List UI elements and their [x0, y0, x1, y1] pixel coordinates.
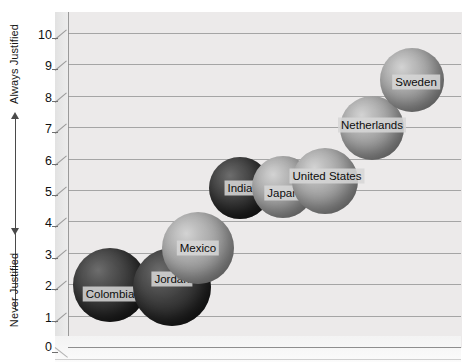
x-axis-line	[68, 347, 461, 348]
y-axis-tick-label: 5	[26, 185, 52, 199]
y-axis-tick-mark	[52, 195, 58, 196]
arrow-down-icon	[11, 228, 19, 235]
gridline	[68, 221, 461, 222]
y-axis-tick-label: 4	[26, 216, 52, 230]
y-axis-tick-mark	[52, 226, 58, 227]
y-axis-tick-mark	[52, 132, 58, 133]
plot-side-wall	[55, 12, 68, 348]
y-axis-tick-mark	[52, 164, 58, 165]
y-axis-tick-mark	[52, 38, 58, 39]
y-axis-tick-mark	[52, 101, 58, 102]
bubble-label: India	[225, 181, 256, 196]
y-axis-top-caption: Always Justified	[0, 14, 28, 114]
bubble-label: United States	[289, 169, 364, 184]
y-axis-tick-label: 7	[26, 122, 52, 136]
y-axis-tick-mark	[52, 321, 58, 322]
y-axis-tick-label: 8	[26, 91, 52, 105]
gridline	[68, 159, 461, 160]
bubble-label: Sweden	[392, 75, 440, 90]
bubble-sweden[interactable]: Sweden	[380, 48, 444, 112]
y-axis-tick-label: 9	[26, 59, 52, 73]
bubble-united-states[interactable]: United States	[292, 148, 358, 214]
y-axis-tick-label: 0	[26, 340, 52, 354]
gridline	[68, 33, 461, 34]
y-axis-tick-mark	[52, 69, 58, 70]
y-axis-tick-label: 1	[26, 311, 52, 325]
floor-front-edge	[55, 359, 461, 360]
bubble-label: Colombia	[83, 287, 138, 302]
y-axis-top-caption-text: Always Justified	[8, 24, 20, 104]
bubble-mexico[interactable]: Mexico	[162, 212, 234, 284]
y-axis-tick-mark	[52, 352, 58, 353]
y-axis-bottom-caption-text: Never Justified	[8, 253, 20, 327]
y-axis-tick-mark	[52, 258, 58, 259]
y-axis-bottom-caption: Never Justified	[0, 238, 28, 342]
y-axis-tick-label: 2	[26, 279, 52, 293]
y-axis-tick-label: 6	[26, 154, 52, 168]
y-axis-tick-label: 10	[26, 28, 52, 42]
y-axis-tick-label: 3	[26, 248, 52, 262]
y-axis-tick-mark	[52, 289, 58, 290]
bubble-label: Mexico	[177, 241, 219, 256]
bubble-label: Netherlands	[338, 118, 406, 133]
